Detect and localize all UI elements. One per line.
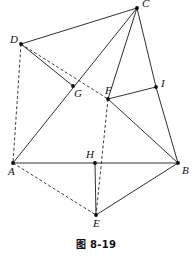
edge-E-B xyxy=(96,163,178,215)
edge-D-A-dashed xyxy=(13,44,21,163)
edge-F-E-dashed xyxy=(96,99,108,215)
vertex-point-f xyxy=(106,97,110,101)
edge-D-C xyxy=(21,8,137,44)
edge-A-E-dashed xyxy=(13,163,96,215)
vertex-point-d xyxy=(19,42,23,46)
vertex-point-b xyxy=(176,161,180,165)
solid-edge-group xyxy=(13,8,178,215)
edge-F-B xyxy=(108,99,178,163)
edge-D-F-dashed xyxy=(21,44,108,99)
edge-D-G xyxy=(21,44,73,86)
vertex-label-c: C xyxy=(142,0,149,9)
vertex-label-d: D xyxy=(10,34,18,45)
vertex-label-b: B xyxy=(182,165,189,176)
vertex-point-i xyxy=(154,85,158,89)
vertex-label-i: I xyxy=(161,78,165,89)
edge-C-I xyxy=(137,8,156,87)
geometry-figure: CDGFIAHBE 图 8-19 xyxy=(0,0,192,256)
edge-F-I xyxy=(108,87,156,99)
vertex-label-e: E xyxy=(93,218,100,229)
vertex-point-c xyxy=(135,6,139,10)
vertex-label-g: G xyxy=(74,88,82,99)
edge-H-E xyxy=(95,163,96,215)
vertex-label-a: A xyxy=(8,166,15,177)
dashed-edge-group xyxy=(13,44,108,215)
figure-caption: 图 8-19 xyxy=(0,236,192,251)
edge-C-F xyxy=(108,8,137,99)
edge-I-B xyxy=(156,87,178,163)
vertex-label-f: F xyxy=(105,85,112,96)
vertex-label-h: H xyxy=(86,149,94,160)
vertex-point-h xyxy=(93,161,97,165)
edge-C-A xyxy=(13,8,137,163)
